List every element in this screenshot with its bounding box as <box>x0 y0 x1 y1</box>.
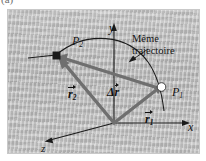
vector-arrow-overbar-delta-r <box>107 82 119 87</box>
vector-arrow-overbar-r2 <box>68 84 76 89</box>
point-label-p2-subscript: 2 <box>79 40 83 49</box>
point-label-p2: P2 <box>72 34 83 49</box>
vector-label-r2: r2 <box>68 84 76 102</box>
trajectory-extension-line <box>28 55 56 58</box>
trajectory-leader-arrowhead <box>129 56 137 63</box>
vector-label-r2-subscript: 2 <box>73 93 77 102</box>
point-label-p1: P1 <box>172 85 183 100</box>
diagram-graphics <box>8 10 199 153</box>
vector-label-r1-base: r <box>145 112 150 126</box>
z-axis-line <box>50 123 114 140</box>
diagram-frame: y x z P2 P1 Mêmetrajectoire r2 r1 Δr <box>7 9 200 154</box>
vector-label-r1-subscript: 1 <box>150 118 154 127</box>
vector-label-r1: r1 <box>145 109 153 127</box>
vector-arrow-overbar-r1 <box>145 109 153 114</box>
z-axis-label: z <box>41 142 45 154</box>
vector-label-delta-r: Δr <box>107 82 119 100</box>
x-axis-label: x <box>188 120 193 135</box>
trajectory-annotation-line2: trajectoire <box>132 45 175 56</box>
vector-label-r2-base: r <box>68 87 73 101</box>
point-marker-p1 <box>157 83 166 92</box>
z-axis-arrowhead <box>45 138 54 144</box>
panel-label: (a) <box>1 0 13 5</box>
point-marker-p2 <box>53 52 61 60</box>
trajectory-annotation: Mêmetrajectoire <box>132 33 175 56</box>
figure-container: (a) <box>0 0 206 161</box>
y-axis-label: y <box>109 21 114 36</box>
trajectory-annotation-line1: Même <box>132 33 159 44</box>
vector-r1-graphic <box>114 85 163 123</box>
point-label-p1-subscript: 1 <box>179 91 183 100</box>
